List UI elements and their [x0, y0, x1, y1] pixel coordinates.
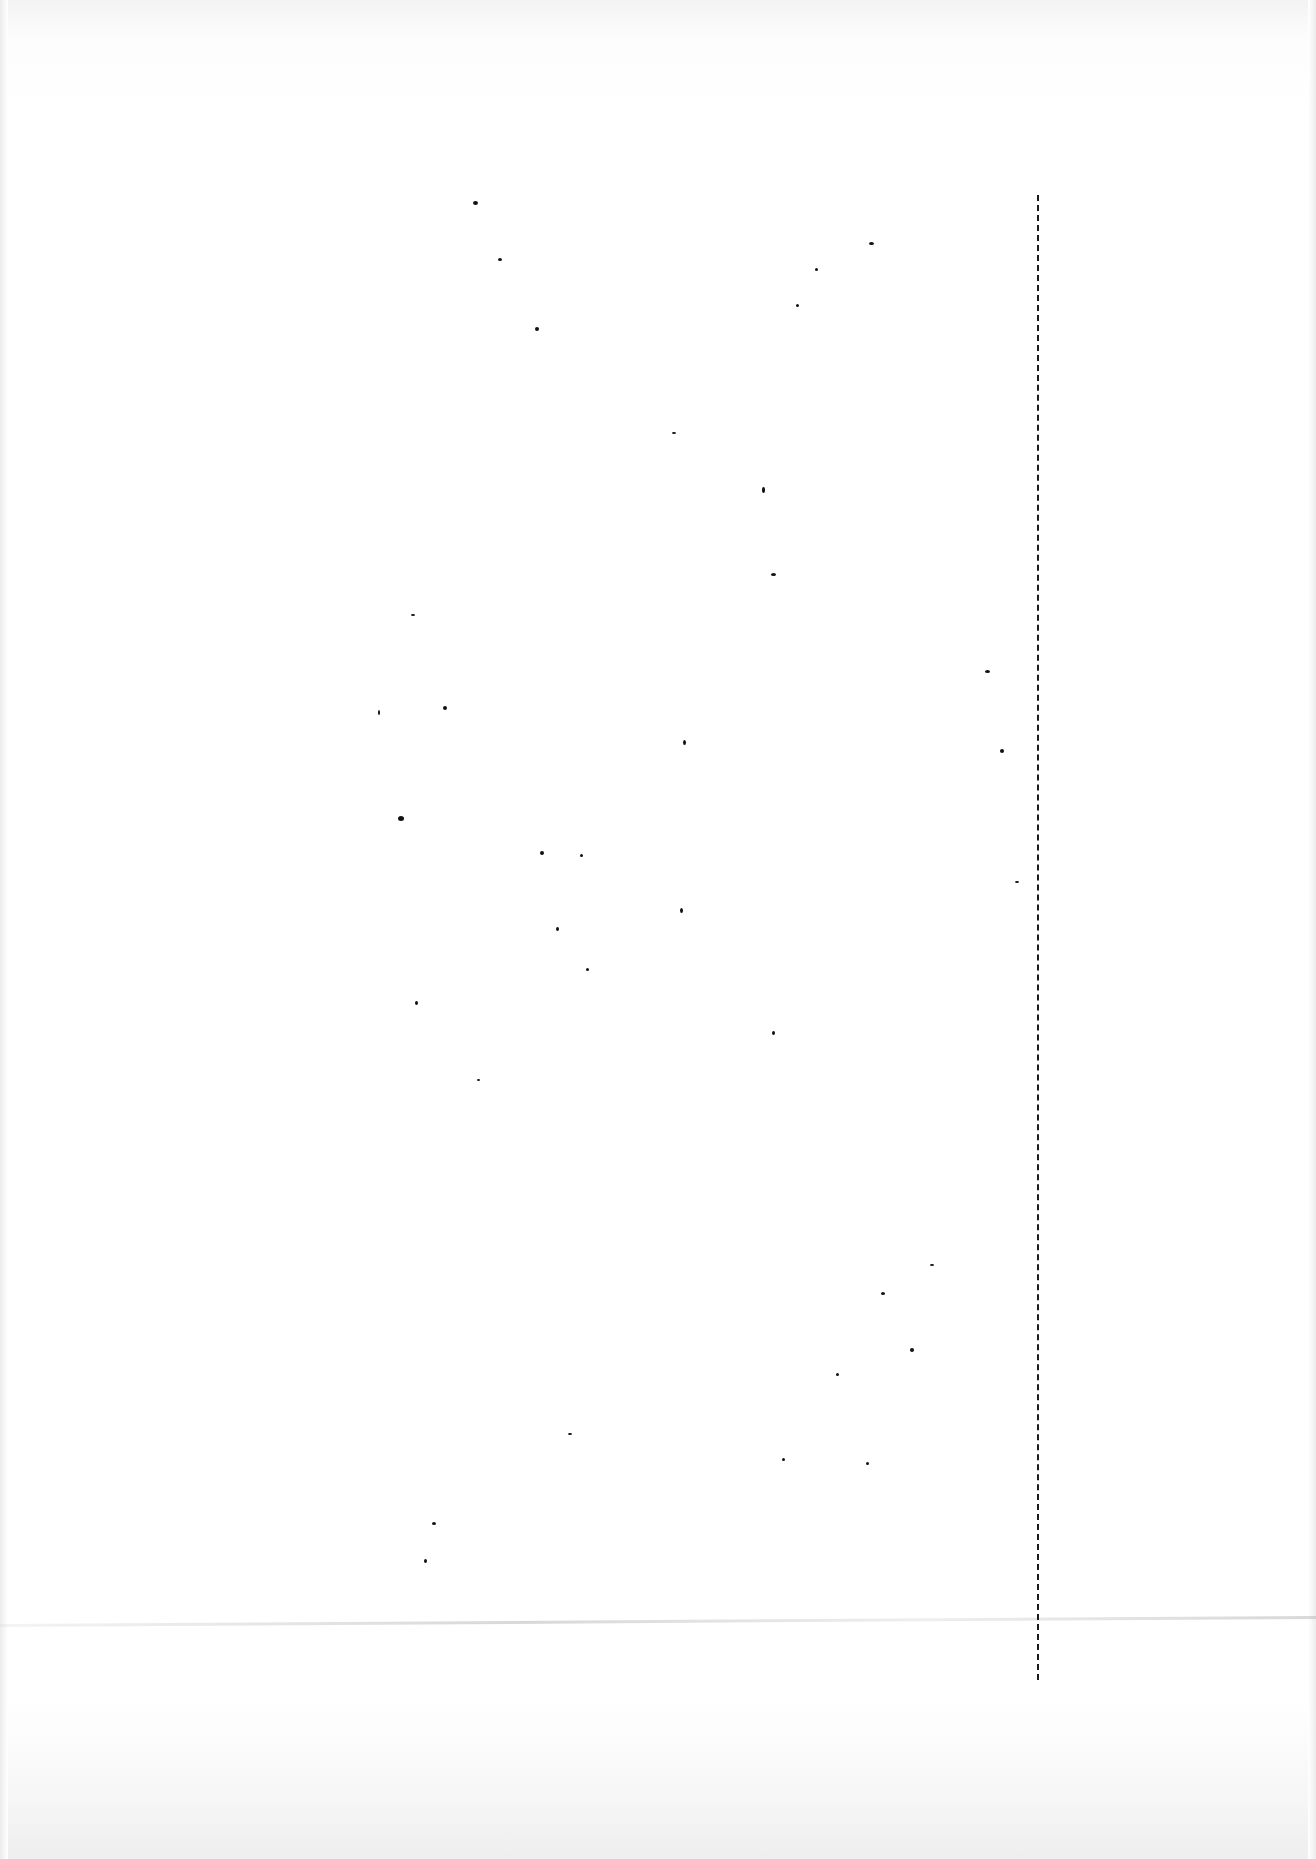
scan-speck [910, 1348, 914, 1352]
scan-speck [782, 1458, 785, 1461]
scan-speck [498, 258, 502, 261]
page-fold-crease [0, 1616, 1316, 1627]
scan-speck [415, 1001, 418, 1005]
scan-speck [535, 327, 539, 331]
scan-speck [680, 908, 683, 913]
scan-speck [1015, 881, 1019, 883]
scan-speck [866, 1462, 869, 1465]
scan-speck [1000, 749, 1004, 753]
scan-speck [771, 573, 776, 576]
scan-speck [683, 740, 686, 745]
scan-speck [796, 304, 799, 307]
scan-speck [540, 851, 544, 855]
scan-speck [477, 1079, 480, 1081]
scanned-page [0, 0, 1316, 1859]
scan-speck [672, 432, 676, 434]
scan-speck [556, 927, 559, 931]
page-edge-right [1308, 0, 1316, 1859]
scan-speck [424, 1559, 427, 1563]
scan-speck [985, 670, 990, 673]
scan-speck [580, 854, 583, 857]
vertical-dashed-rule [1037, 195, 1039, 1680]
scan-speck [836, 1373, 839, 1376]
scan-speck [586, 968, 589, 971]
scan-speck [881, 1292, 885, 1295]
scan-speck [815, 268, 818, 271]
page-edge-left [0, 0, 8, 1859]
scan-speck [398, 816, 404, 821]
scan-speck [378, 710, 380, 715]
scan-speck [930, 1264, 934, 1266]
scan-speck [772, 1031, 775, 1035]
scan-speck [443, 706, 447, 710]
scan-speck [869, 242, 874, 245]
scan-speck [432, 1522, 436, 1525]
scan-speck [411, 614, 415, 616]
scan-speck [762, 487, 765, 493]
scan-speck [568, 1433, 572, 1435]
scan-speck [473, 201, 478, 205]
